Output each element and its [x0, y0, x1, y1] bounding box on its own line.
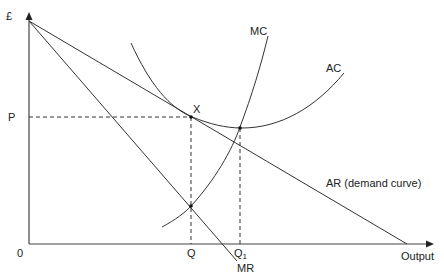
ac-mc-intersection-marker [238, 126, 242, 130]
mc-curve [162, 36, 268, 227]
q1-label-subscript: 1 [243, 252, 248, 261]
point-x-label: X [193, 103, 201, 115]
mc-mr-intersection-marker [189, 204, 193, 208]
mr-curve [29, 21, 237, 261]
q1-label: Q1 [234, 247, 248, 261]
x-axis-label: Output [401, 250, 434, 262]
y-axis-arrow-icon [26, 12, 33, 20]
mr-label: MR [237, 262, 254, 274]
point-x-marker [189, 115, 193, 119]
axes [26, 12, 435, 248]
ar-label: AR (demand curve) [326, 177, 421, 189]
economics-diagram: £ 0 Output P X MC AC AR (demand curve) M… [0, 0, 444, 278]
x-axis-arrow-icon [426, 241, 434, 248]
ar-demand-curve [29, 21, 407, 244]
ac-label: AC [326, 62, 341, 74]
ac-curve [131, 43, 344, 128]
origin-label: 0 [17, 247, 23, 259]
y-axis-label: £ [6, 10, 12, 22]
price-label: P [8, 111, 15, 123]
mc-label: MC [250, 25, 267, 37]
q-label: Q [187, 247, 196, 259]
